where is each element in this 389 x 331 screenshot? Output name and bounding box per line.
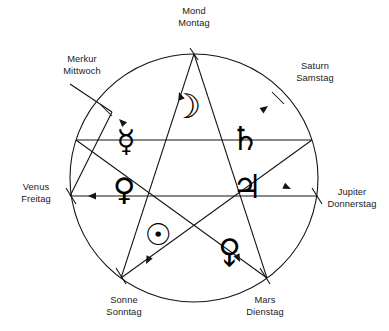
label-mond-weekday: Montag xyxy=(178,18,210,28)
merkur-pointer-line xyxy=(70,84,112,112)
mercury-symbol: ☿ xyxy=(116,123,135,159)
label-saturn-weekday: Samstag xyxy=(296,73,333,83)
jupiter-symbol: ♃ xyxy=(232,167,262,206)
planet-glyphs: ☽ ☿ ♄ ♀ ♃ ☉ ♂ xyxy=(113,86,262,273)
moon-symbol: ☽ xyxy=(171,86,201,126)
pentagram-diagram: ☽ ☿ ♄ ♀ ♃ ☉ ♂ Mond Montag Merkur Mittwoc… xyxy=(0,0,389,331)
arrow-to-jupiter xyxy=(282,183,292,192)
vertex-labels: Mond Montag Merkur Mittwoch Saturn Samst… xyxy=(21,6,376,317)
label-mond-planet: Mond xyxy=(182,6,206,16)
label-saturn-planet: Saturn xyxy=(301,61,329,71)
label-mars-planet: Mars xyxy=(254,295,275,305)
label-venus-weekday: Freitag xyxy=(21,194,51,204)
label-mars-weekday: Dienstag xyxy=(246,307,284,317)
arrow-to-saturn xyxy=(260,103,270,113)
label-merkur-weekday: Mittwoch xyxy=(63,66,100,76)
mars-symbol: ♂ xyxy=(207,228,252,273)
sun-symbol: ☉ xyxy=(145,217,172,252)
label-sonne-planet: Sonne xyxy=(110,295,137,305)
label-jupiter-weekday: Donnerstag xyxy=(327,199,376,209)
vertex-ticks xyxy=(66,48,322,284)
tick-saturn xyxy=(272,92,284,104)
label-sonne-weekday: Sonntag xyxy=(106,307,141,317)
saturn-symbol: ♄ xyxy=(230,119,260,158)
label-jupiter-planet: Jupiter xyxy=(338,187,367,197)
label-merkur-planet: Merkur xyxy=(67,54,97,64)
arrow-to-venus xyxy=(88,193,96,200)
label-venus-planet: Venus xyxy=(23,182,50,192)
venus-symbol: ♀ xyxy=(113,171,136,207)
venus-merkur-connector xyxy=(70,112,112,196)
pentagram-svg: ☽ ☿ ♄ ♀ ♃ ☉ ♂ Mond Montag Merkur Mittwoc… xyxy=(0,0,389,331)
tick-merkur xyxy=(100,104,112,116)
